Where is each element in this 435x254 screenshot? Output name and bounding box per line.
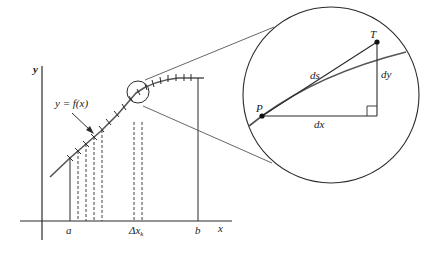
partition-dashed-lines (78, 130, 102, 221)
label-dy: dy (381, 68, 392, 80)
label-T: T (370, 28, 377, 40)
label-ds: ds (310, 69, 320, 81)
point-P (259, 113, 264, 118)
tick-label-delta-xk: Δxk (128, 224, 144, 238)
zoom-circle (243, 7, 419, 183)
label-dx: dx (314, 118, 325, 130)
delta-x-text: Δx (128, 224, 140, 236)
tick-label-b: b (195, 224, 201, 236)
curve-tick-marks (67, 74, 191, 161)
delta-x-subscript: k (140, 230, 144, 238)
function-label: y = f(x) (54, 97, 88, 110)
x-axis-label: x (217, 222, 223, 234)
delta-xk-dashed-lines (134, 122, 142, 221)
arc-length-diagram: y x y = f(x) a Δxk b P T ds dx dy (0, 0, 435, 254)
label-P: P (255, 102, 263, 114)
y-axis-label: y (31, 63, 38, 75)
tick-label-a: a (66, 224, 72, 236)
point-T (374, 39, 379, 44)
